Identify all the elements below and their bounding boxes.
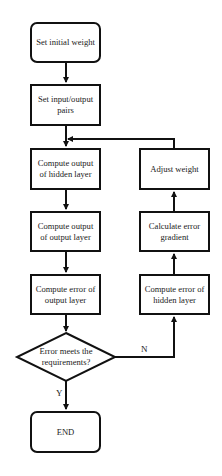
node-label: Compute output of hidden layer: [34, 158, 97, 180]
node-label: Compute error of output layer: [34, 284, 97, 306]
node-label: Adjust weight: [150, 164, 198, 175]
node-compute-hidden-output: Compute output of hidden layer: [30, 148, 101, 190]
node-compute-output-output: Compute output of output layer: [30, 211, 101, 252]
node-adjust-weight: Adjust weight: [139, 148, 210, 190]
node-label: END: [57, 427, 75, 438]
node-label: Set initial weight: [36, 37, 95, 48]
node-label: Set input/output pairs: [34, 94, 97, 116]
decision-label: Error meets the requirements?: [30, 346, 102, 368]
node-compute-hidden-error: Compute error of hidden layer: [139, 274, 210, 315]
arrow-n10-n3: [68, 139, 174, 148]
node-set-io-pairs: Set input/output pairs: [30, 84, 101, 126]
node-set-initial-weight: Set initial weight: [30, 22, 101, 63]
node-calc-gradient: Calculate error gradient: [139, 211, 210, 252]
node-end: END: [30, 411, 101, 453]
node-label: Compute output of output layer: [34, 221, 97, 243]
edge-label-yes: Y: [56, 388, 63, 398]
node-label: Compute error of hidden layer: [143, 284, 206, 306]
node-label: Calculate error gradient: [143, 221, 206, 243]
edge-label-no: N: [141, 344, 148, 354]
node-compute-output-error: Compute error of output layer: [30, 274, 101, 315]
